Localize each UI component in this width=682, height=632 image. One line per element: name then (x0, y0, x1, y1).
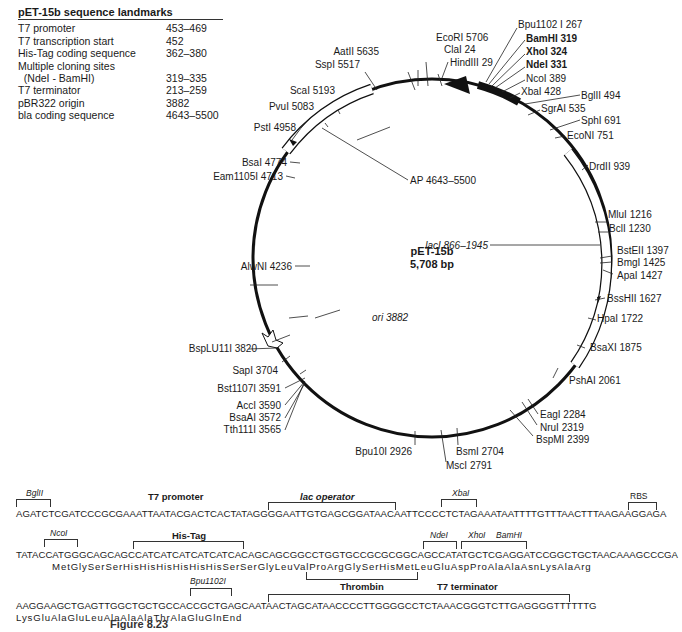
site-label-bsaai: BsaAI 3572 (229, 412, 281, 423)
site-label-bamhi: BamHI 319 (526, 33, 578, 44)
seq-label-t7-promoter: T7 promoter (148, 491, 203, 502)
seq-label-bglii: BglII (26, 488, 43, 498)
site-label-sgrai: SgrAI 535 (541, 103, 586, 114)
site-label-bcli: BclI 1230 (609, 223, 651, 234)
site-label-aatii: AatII 5635 (333, 46, 379, 57)
seq-label-his-tag: His-Tag (172, 530, 206, 541)
site-label-clai: ClaI 24 (444, 44, 476, 55)
protein-sequence-line-2: MetGlySerSerHisHisHisHisHisHisSerSerGlyL… (52, 561, 592, 572)
seq-label-ncoi: NcoI (50, 528, 67, 538)
figure-caption: Figure 8.23 (110, 618, 168, 630)
site-label-apai: ApaI 1427 (617, 270, 663, 281)
site-label-bsteii: BstEII 1397 (617, 245, 669, 256)
site-label-bsmi: BsmI 2704 (456, 446, 504, 457)
bracket-bpu1102i (190, 588, 232, 596)
seq-label-bamhi: BamHI (496, 530, 522, 540)
seq-label-lac-operator: lac operator (300, 491, 354, 502)
bracket-xhoi-bamhi (461, 541, 527, 549)
bracket-xbai (441, 499, 477, 507)
laci-feature-arc (568, 152, 607, 365)
plasmid-map: pET-15b 5,708 bp AP 4643–5500 lacI 866–1… (0, 0, 682, 478)
site-label-scai: ScaI 5193 (290, 85, 335, 96)
site-label-bspmi: BspMI 2399 (536, 434, 590, 445)
site-label-bmgi: BmgI 1425 (617, 257, 666, 268)
site-label-econi: EcoNI 751 (567, 130, 614, 141)
site-label-tth111i: Tth111I 3565 (224, 424, 282, 435)
site-label-mlui: MluI 1216 (608, 209, 652, 220)
site-label-pvui: PvuI 5083 (269, 101, 314, 112)
site-label-hpai: HpaI 1722 (597, 313, 644, 324)
site-label-sapi: SapI 3704 (232, 365, 278, 376)
site-label-sphi: SphI 691 (581, 115, 621, 126)
site-label-ecori: EcoRI 5706 (436, 32, 489, 43)
site-label-alwni: AlwNI 4236 (241, 261, 293, 272)
dna-sequence-line-3: AAGGAAGCTGAGTTGGCTGCTGCCACCGCTGAGCAATAAC… (16, 600, 597, 611)
seq-label-ndei: NdeI (430, 530, 448, 540)
bracket-his-tag (133, 541, 244, 549)
bracket-ncoi (44, 539, 78, 547)
site-label-bpu1102i: Bpu1102 I 267 (518, 19, 583, 30)
feature-label-ap: AP 4643–5500 (410, 175, 476, 186)
site-label-pshai: PshAI 2061 (569, 375, 621, 386)
site-label-bglii: BglII 494 (581, 90, 621, 101)
site-label-ndei: NdeI 331 (526, 59, 568, 70)
site-label-bsshii: BssHII 1627 (607, 293, 662, 304)
dna-sequence-line-2: TATACCATGGGCAGCAGCCATCATCATCATCATCACAGCA… (16, 549, 678, 560)
site-label-bst1107i: Bst1107I 3591 (217, 383, 281, 394)
ap-feature-arc (286, 89, 372, 151)
site-label-xbai: XbaI 428 (521, 86, 561, 97)
dna-sequence-line-1: AGATCTCGATCCCGCGAAATTAATACGACTCACTATAGGG… (16, 508, 667, 519)
feature-label-laci: lacI 866–1945 (425, 240, 488, 251)
site-label-sspi: SspI 5517 (315, 59, 360, 70)
site-label-bsplu11i: BspLU11I 3820 (189, 343, 258, 354)
site-label-xhoi: XhoI 324 (526, 46, 568, 57)
feature-label-ori: ori 3882 (372, 312, 409, 323)
site-label-msci: MscI 2791 (446, 460, 493, 471)
seq-label-t7-terminator: T7 terminator (437, 581, 498, 592)
site-label-drdii: DrdII 939 (589, 161, 631, 172)
site-label-bsai: BsaI 4774 (242, 157, 287, 168)
seq-label-bpu1102i: Bpu1102I (190, 576, 226, 586)
site-label-eam1105i: Eam1105I 4713 (213, 171, 283, 182)
site-label-acci: AccI 3590 (237, 400, 282, 411)
bracket-ndei (423, 541, 457, 549)
site-label-eagi: EagI 2284 (540, 409, 586, 420)
site-label-bpu10i: Bpu10I 2926 (355, 446, 412, 457)
bracket-bglii (16, 499, 51, 507)
seq-label-xhoi: XhoI (468, 530, 486, 540)
site-label-hindiii: HindIII 29 (450, 57, 493, 68)
site-label-psti: PstI 4958 (254, 122, 297, 133)
site-label-ncoi: NcoI 389 (526, 73, 566, 84)
site-label-nrui: NruI 2319 (540, 422, 584, 433)
seq-label-rbs: RBS (630, 491, 647, 501)
bracket-thrombin-site (306, 572, 418, 580)
seq-label-xbai: XbaI (452, 488, 470, 498)
seq-label-thrombin: Thrombin (340, 581, 384, 592)
site-label-bsaxi: BsaXI 1875 (590, 342, 642, 353)
plasmid-size: 5,708 bp (410, 258, 454, 270)
